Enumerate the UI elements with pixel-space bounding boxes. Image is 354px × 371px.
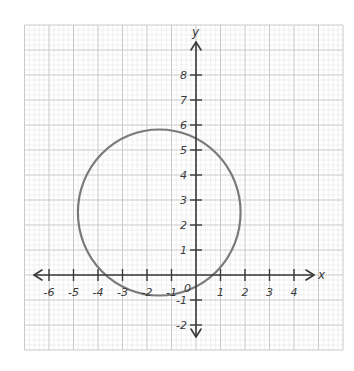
y-tick-label: 1 [180,244,187,257]
origin-label: 0 [184,282,191,295]
x-tick-label: 4 [291,286,298,299]
x-tick-label: -2 [142,286,153,299]
x-tick-label: -4 [93,286,104,299]
coordinate-plane: -6-5-4-3-2-1123487654321-1-2 x y 0 [0,0,354,371]
y-tick-label: 2 [180,219,187,232]
y-axis-label: y [191,25,200,39]
y-tick-label: 4 [180,169,187,182]
x-tick-label: -3 [117,286,128,299]
x-axis-label: x [317,268,326,282]
circle-curve [78,130,241,296]
y-tick-label: -1 [176,294,187,307]
y-tick-label: -2 [176,319,187,332]
x-tick-label: -6 [44,286,55,299]
y-tick-label: 8 [180,69,187,82]
y-tick-label: 5 [180,144,187,157]
x-tick-label: 3 [266,286,273,299]
x-tick-label: 2 [242,286,249,299]
y-tick-label: 7 [180,94,187,107]
y-tick-label: 3 [180,194,187,207]
x-tick-label: 1 [217,286,224,299]
y-tick-label: 6 [180,119,187,132]
x-tick-label: -5 [68,286,79,299]
